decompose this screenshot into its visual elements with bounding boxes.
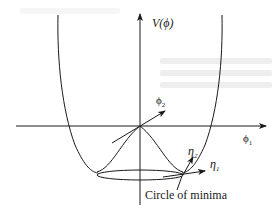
phi2-subscript: 2 xyxy=(162,101,166,109)
circle-of-minima-label: Circle of minima xyxy=(145,188,228,202)
mexican-hat-diagram: V(ϕ) ϕ2 ϕ1 η2 η1 Circle of minima xyxy=(0,0,278,216)
eta1-subscript: 1 xyxy=(216,165,220,173)
eta2-vector xyxy=(183,157,193,175)
phi2-label: ϕ2 xyxy=(156,94,166,109)
eta2-label: η2 xyxy=(188,144,198,160)
eta2-subscript: 2 xyxy=(194,152,198,160)
eta1-label: η1 xyxy=(210,157,219,173)
v-axis-label: V(ϕ) xyxy=(152,16,174,30)
phi1-label: ϕ1 xyxy=(243,132,253,147)
phi1-subscript: 1 xyxy=(249,139,253,147)
phi2-vector xyxy=(112,111,165,143)
